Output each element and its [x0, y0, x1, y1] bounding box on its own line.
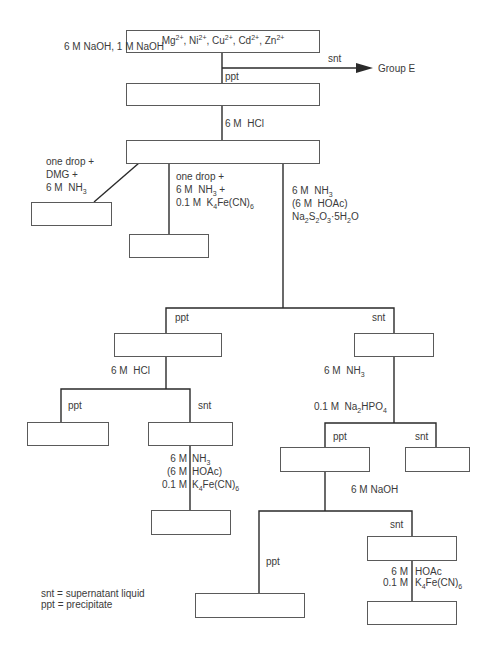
hcl-reagent-label: 6 M HCl	[225, 117, 264, 130]
hcl-reagent-label: 6 M HCl	[111, 364, 150, 377]
naoh-reagent-label: 6 M NaOH, 1 M NaOH	[64, 40, 164, 53]
concentration: 0.1 M	[120, 478, 187, 491]
cadmium-test-box	[151, 510, 231, 535]
snt-label: snt	[372, 311, 385, 324]
zinc-test-box	[367, 601, 457, 625]
substance: NH3	[192, 452, 210, 465]
supernatant-box	[367, 536, 457, 561]
substance: K4Fe(CN)6	[415, 576, 462, 589]
phosphate-reagent-label: 0.1 M Na2HPO4	[314, 400, 387, 413]
substance: K4Fe(CN)6	[192, 478, 239, 491]
concentration: (6 M	[120, 465, 187, 478]
snt-label: snt	[415, 430, 428, 443]
supernatant-box	[405, 447, 470, 472]
reagent-line: (6 M HOAc)	[292, 197, 359, 210]
ammonia-reagent-label: 6 M NH3	[324, 364, 365, 377]
reagent-line: 6 M NH3	[292, 184, 359, 197]
substance: HCl	[247, 118, 264, 129]
supernatant-box	[148, 422, 233, 446]
snt-label: snt	[328, 52, 341, 65]
copper-test-box	[129, 234, 209, 258]
ferrocyanide-test-reagents: one drop + 6 M NH3 + 0.1 M K4Fe(CN)6	[176, 170, 254, 209]
split-line	[166, 308, 394, 333]
reagent-line: 0.1 M K4Fe(CN)6	[176, 196, 254, 209]
naoh-reagent-label: 6 M NaOH	[351, 483, 398, 496]
ppt-label: ppt	[68, 399, 82, 412]
precipitate-box	[126, 83, 320, 106]
ppt-label: ppt	[175, 311, 189, 324]
reagent-line: one drop +	[176, 170, 254, 183]
concentration: 0.1 M	[340, 576, 408, 589]
concentration: 6 M	[120, 452, 187, 465]
reagent-line: one drop +	[46, 155, 94, 168]
dmg-test-reagents: one drop + DMG + 6 M NH3	[46, 155, 94, 194]
ppt-label: ppt	[333, 430, 347, 443]
precipitate-box	[280, 447, 370, 472]
precipitate-box	[114, 333, 222, 357]
legend-ppt: ppt = precipitate	[41, 598, 112, 611]
dissolved-box	[126, 140, 320, 164]
arrow-head-icon	[356, 63, 373, 73]
snt-label: snt	[390, 518, 403, 531]
reagent-line: Na2S2O3·5H2O	[292, 210, 359, 223]
ppt-label: ppt	[266, 555, 280, 568]
supernatant-box	[354, 333, 434, 357]
ppt-label: ppt	[225, 70, 239, 83]
reagent-line: DMG +	[46, 168, 94, 181]
thiosulfate-reagents: 6 M NH3 (6 M HOAc) Na2S2O3·5H2O	[292, 184, 359, 223]
nickel-test-box	[31, 202, 112, 226]
substance: HOAc)	[192, 465, 222, 478]
snt-label: snt	[198, 399, 211, 412]
reagent-line: 6 M NH3	[46, 181, 94, 194]
reagent-line: 6 M NH3 +	[176, 183, 254, 196]
precipitate-box	[27, 422, 109, 446]
qualitative-analysis-flowchart: Mg2+, Ni2+, Cu2+, Cd2+, Zn2+ 6 M NaOH, 1…	[0, 0, 496, 646]
group-e-label: Group E	[378, 62, 415, 75]
connector-line	[94, 163, 139, 202]
concentration: 6 M	[225, 118, 242, 129]
magnesium-precipitate-box	[195, 593, 305, 618]
